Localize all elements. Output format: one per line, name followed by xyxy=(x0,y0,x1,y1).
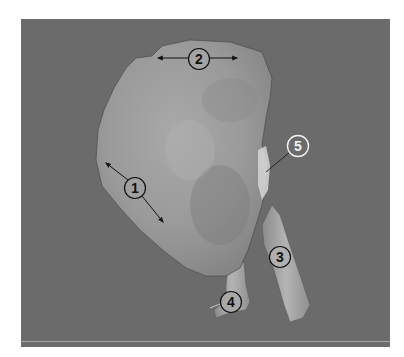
highlight-patch xyxy=(165,120,215,180)
label-2: 2 xyxy=(189,49,210,70)
leader-5 xyxy=(266,152,290,172)
label-3: 3 xyxy=(270,247,291,268)
label-1: 1 xyxy=(125,178,146,199)
svg-text:2: 2 xyxy=(195,51,203,67)
shading-patch xyxy=(202,78,258,122)
svg-text:3: 3 xyxy=(276,249,284,265)
label-5: 5 xyxy=(288,136,309,157)
svg-text:1: 1 xyxy=(131,180,139,196)
specimen-figure: 1 2 3 4 5 xyxy=(0,0,404,357)
svg-text:5: 5 xyxy=(294,138,302,154)
svg-text:4: 4 xyxy=(227,294,235,310)
label-4: 4 xyxy=(221,292,242,313)
